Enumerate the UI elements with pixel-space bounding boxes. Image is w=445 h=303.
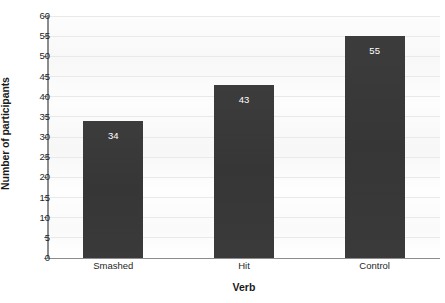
y-tick-label: 40	[10, 92, 50, 102]
bar: 34	[83, 121, 143, 258]
bar: 43	[214, 85, 274, 258]
bar-value-label: 43	[214, 95, 274, 105]
y-tick-label: 10	[10, 213, 50, 223]
y-tick-label: 35	[10, 112, 50, 122]
y-tick-label: 50	[10, 52, 50, 62]
bar-value-label: 34	[83, 131, 143, 141]
y-tick-label: 60	[10, 11, 50, 21]
y-tick-label: 25	[10, 152, 50, 162]
x-tick-label: Smashed	[48, 261, 179, 271]
y-tick-label: 5	[10, 233, 50, 243]
x-tick-label: Hit	[179, 261, 310, 271]
bar-value-label: 55	[345, 46, 405, 56]
y-tick-label: 55	[10, 31, 50, 41]
bar-chart: Number of participants 05101520253035404…	[0, 0, 445, 303]
y-tick-label: 20	[10, 173, 50, 183]
y-tick-label: 45	[10, 72, 50, 82]
bar: 55	[345, 36, 405, 258]
x-tick-label: Control	[309, 261, 440, 271]
y-tick-label: 30	[10, 132, 50, 142]
y-tick-label: 15	[10, 193, 50, 203]
y-tick-label: 0	[10, 253, 50, 263]
x-axis-title: Verb	[48, 281, 440, 293]
gridline	[48, 16, 440, 17]
